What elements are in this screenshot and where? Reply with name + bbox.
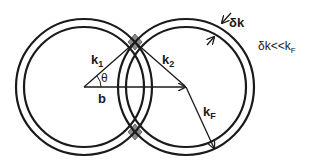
k1-label: k1: [91, 52, 103, 69]
fermi-shell-diagram: k1 θ b k2 kF δk δk<<kF: [0, 0, 314, 165]
theta-label: θ: [101, 71, 108, 85]
b-label: b: [98, 91, 106, 106]
delta-k-inner-arrow: [207, 37, 214, 45]
delta-k-label: δk: [229, 15, 245, 30]
condition-label: δk<<kF: [258, 39, 296, 55]
kF-label: kF: [203, 104, 216, 121]
k2-label: k2: [162, 52, 174, 69]
